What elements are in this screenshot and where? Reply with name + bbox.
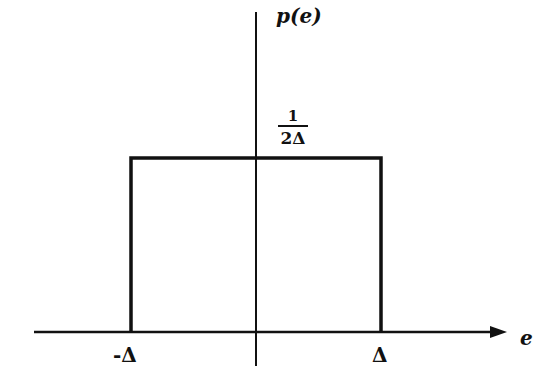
height-label: 1 2Δ	[278, 108, 308, 147]
tick-label-neg-delta: -Δ	[113, 343, 137, 367]
height-numerator: 1	[278, 108, 308, 124]
pdf-chart	[0, 0, 554, 390]
height-denominator: 2Δ	[278, 129, 308, 147]
x-axis-arrow-icon	[490, 326, 507, 338]
x-axis-label: e	[520, 326, 533, 350]
y-axis-label: p(e)	[276, 4, 322, 28]
fraction-bar	[278, 125, 308, 127]
tick-label-pos-delta: Δ	[372, 343, 388, 367]
